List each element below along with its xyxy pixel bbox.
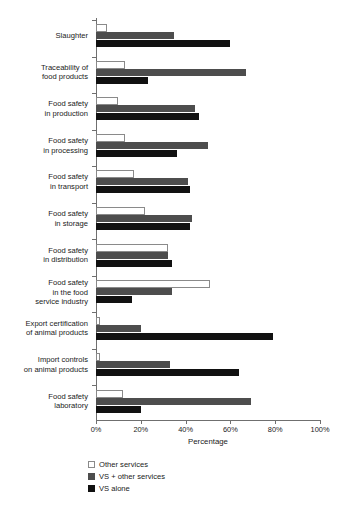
bar-group — [96, 61, 320, 85]
category-label: Food safetyin processing — [0, 136, 88, 155]
legend-swatch-icon — [88, 473, 95, 480]
category-label: Food safetyin storage — [0, 209, 88, 228]
legend-swatch-icon — [88, 485, 95, 492]
bar-vsalone — [96, 77, 148, 84]
bar-other — [96, 61, 125, 69]
bar-vsalone — [96, 40, 230, 47]
bar-group — [96, 24, 320, 48]
category-label-line: Food safety — [0, 100, 88, 110]
bar-other — [96, 24, 107, 32]
horizontal-bar-chart: SlaughterTraceability offood productsFoo… — [0, 0, 337, 520]
category-label-line: Food safety — [0, 278, 88, 288]
category-label-line: in the food — [0, 287, 88, 297]
bar-group — [96, 280, 320, 304]
category-label-line: Traceability of — [0, 63, 88, 73]
y-axis-tick — [92, 57, 96, 58]
category-label-line: Import controls — [0, 356, 88, 366]
y-axis-tick — [92, 93, 96, 94]
bar-other — [96, 134, 125, 142]
chart-legend: Other servicesVS + other servicesVS alon… — [88, 459, 288, 495]
category-label-line: laboratory — [0, 402, 88, 412]
bar-group — [96, 353, 320, 377]
category-label: Slaughter — [0, 31, 88, 41]
bar-vsother — [96, 325, 141, 332]
y-axis-tick — [92, 349, 96, 350]
y-axis-tick — [92, 276, 96, 277]
bar-vsother — [96, 178, 188, 185]
bar-vsalone — [96, 369, 239, 376]
category-label-line: Food safety — [0, 246, 88, 256]
bar-vsother — [96, 142, 208, 149]
bar-group — [96, 170, 320, 194]
category-label-line: in production — [0, 109, 88, 119]
bar-group — [96, 317, 320, 341]
category-label: Food safetyin production — [0, 100, 88, 119]
legend-item: Other services — [88, 459, 288, 470]
category-label: Food safetyin the foodservice industry — [0, 278, 88, 307]
legend-label: VS + other services — [99, 472, 165, 481]
bar-vsalone — [96, 150, 177, 157]
bar-group — [96, 134, 320, 158]
category-axis-labels: SlaughterTraceability offood productsFoo… — [0, 18, 88, 420]
category-label: Import controlson animal products — [0, 356, 88, 375]
x-axis-title: Percentage — [96, 437, 320, 446]
bar-group — [96, 207, 320, 231]
bar-vsother — [96, 105, 195, 112]
category-label-line: Food safety — [0, 173, 88, 183]
x-tick-label: 80% — [268, 425, 283, 434]
category-label-line: of animal products — [0, 329, 88, 339]
category-label-line: in storage — [0, 219, 88, 229]
category-label-line: Food safety — [0, 209, 88, 219]
category-label-line: in transport — [0, 182, 88, 192]
bar-vsother — [96, 361, 170, 368]
y-axis-tick — [92, 166, 96, 167]
bar-other — [96, 390, 123, 398]
bar-vsother — [96, 215, 192, 222]
x-tick-mark — [275, 420, 276, 424]
category-label-line: service industry — [0, 297, 88, 307]
category-label-line: in processing — [0, 146, 88, 156]
bar-other — [96, 97, 118, 105]
bar-group — [96, 390, 320, 414]
category-label: Traceability offood products — [0, 63, 88, 82]
x-tick-mark — [230, 420, 231, 424]
y-axis-tick — [92, 385, 96, 386]
x-tick-mark — [186, 420, 187, 424]
bar-vsalone — [96, 406, 141, 413]
y-axis-tick — [92, 130, 96, 131]
bar-group — [96, 244, 320, 268]
bar-other — [96, 353, 100, 361]
x-tick-mark — [141, 420, 142, 424]
bar-vsother — [96, 32, 174, 39]
bar-vsalone — [96, 333, 273, 340]
y-axis-tick — [92, 203, 96, 204]
bar-vsalone — [96, 296, 132, 303]
x-tick-label: 20% — [133, 425, 148, 434]
category-label: Food safetyin transport — [0, 173, 88, 192]
x-tick-label: 40% — [178, 425, 193, 434]
bar-other — [96, 244, 168, 252]
bar-vsalone — [96, 186, 190, 193]
bar-other — [96, 170, 134, 178]
category-label: Food safetyin distribution — [0, 246, 88, 265]
category-label-line: Food safety — [0, 392, 88, 402]
y-axis-tick — [92, 239, 96, 240]
bar-vsother — [96, 288, 172, 295]
bar-vsother — [96, 69, 246, 76]
legend-label: Other services — [99, 460, 148, 469]
bar-vsother — [96, 252, 168, 259]
category-label: Export certificationof animal products — [0, 319, 88, 338]
y-axis-tick — [92, 312, 96, 313]
bar-vsalone — [96, 223, 190, 230]
x-tick-label: 60% — [223, 425, 238, 434]
bars-container — [96, 18, 320, 420]
bar-group — [96, 97, 320, 121]
x-tick-label: 0% — [91, 425, 102, 434]
bar-other — [96, 317, 100, 325]
category-label-line: Slaughter — [0, 31, 88, 41]
category-label: Food safetylaboratory — [0, 392, 88, 411]
legend-item: VS alone — [88, 483, 288, 494]
x-tick-mark — [320, 420, 321, 424]
plot-area: SlaughterTraceability offood productsFoo… — [0, 0, 337, 440]
bar-vsalone — [96, 113, 199, 120]
